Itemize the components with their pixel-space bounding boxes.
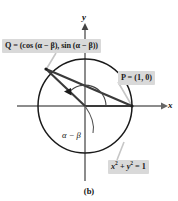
angle-label-leader-arc xyxy=(85,106,94,133)
q-point-callout: Q = (cos (α − β), sin (α − β)) xyxy=(2,39,101,53)
x-axis-arrow-icon xyxy=(161,103,168,110)
circle-equation-callout: x2 + y2 = 1 xyxy=(108,160,149,174)
leader-line-circle-eq xyxy=(117,142,124,160)
figure-caption: (b) xyxy=(0,186,178,196)
angle-label: α − β xyxy=(62,131,81,140)
point-p-marker xyxy=(130,104,133,107)
y-axis-label: y xyxy=(82,13,86,22)
circle-eq-tail: = 1 xyxy=(133,162,146,171)
circle-eq-plus: + xyxy=(118,162,127,171)
p-point-callout: P = (1, 0) xyxy=(118,71,155,85)
point-q-marker xyxy=(44,67,47,70)
unit-circle-figure xyxy=(0,0,178,201)
x-axis-label: x xyxy=(168,101,173,110)
y-axis-arrow-icon xyxy=(82,23,89,30)
radius-oq-segment xyxy=(46,69,85,106)
leader-line-q xyxy=(47,53,56,68)
